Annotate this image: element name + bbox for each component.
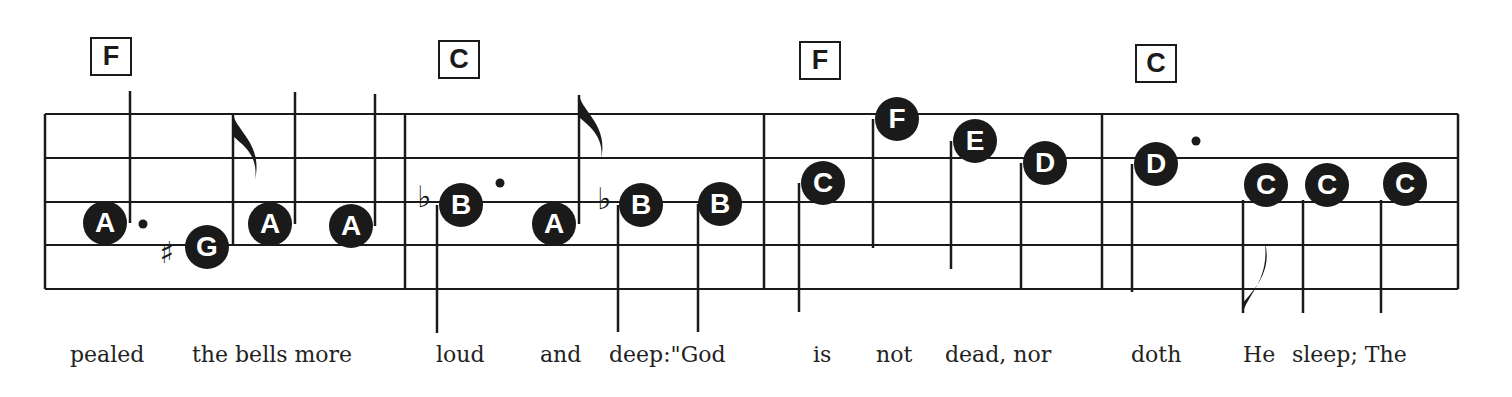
lyric-word: not: [876, 342, 912, 367]
lyric-word: dead, nor: [945, 342, 1051, 367]
lyric-word: pealed: [70, 342, 144, 367]
note-head-d: D: [1023, 141, 1067, 185]
note-head-c: C: [1305, 163, 1349, 207]
music-staff: [0, 0, 1512, 397]
note-head-c: C: [801, 161, 845, 205]
flat-icon: ♭: [597, 181, 611, 216]
chord-symbol: F: [90, 37, 132, 76]
note-head-c: C: [1383, 162, 1427, 206]
note-head-a: A: [83, 201, 127, 245]
flat-icon: ♭: [417, 179, 431, 214]
eighth-flag-icon: [1243, 243, 1267, 313]
note-head-f: F: [875, 97, 919, 141]
eighth-flag-icon: [579, 95, 603, 161]
dotted-note-dot-icon: [139, 220, 148, 229]
sharp-icon: ♯: [160, 235, 175, 270]
lyric-word: is: [813, 342, 831, 367]
note-head-e: E: [953, 119, 997, 163]
note-head-b: B: [439, 183, 483, 227]
note-head-b: B: [698, 182, 742, 226]
lyric-word: and: [540, 342, 581, 367]
lyric-word: the bells more: [192, 342, 352, 367]
lyric-word: doth: [1131, 342, 1181, 367]
note-head-d: D: [1134, 142, 1178, 186]
eighth-flag-icon: [233, 114, 257, 180]
note-head-g: G: [185, 225, 229, 269]
note-head-a: A: [248, 202, 292, 246]
chord-symbol: C: [438, 40, 480, 79]
note-head-a: A: [329, 204, 373, 248]
lyric-word: deep:"God: [609, 342, 726, 367]
chord-symbol: C: [1135, 44, 1177, 83]
note-head-c: C: [1244, 163, 1288, 207]
note-head-a: A: [532, 202, 576, 246]
dotted-note-dot-icon: [496, 179, 505, 188]
lyric-word: He: [1243, 342, 1275, 367]
note-head-b: B: [619, 183, 663, 227]
chord-symbol: F: [799, 41, 841, 80]
lyric-word: loud: [436, 342, 485, 367]
lyric-word: sleep; The: [1292, 342, 1407, 367]
dotted-note-dot-icon: [1192, 137, 1201, 146]
